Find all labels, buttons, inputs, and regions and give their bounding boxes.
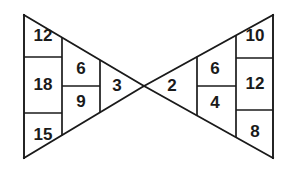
cell-left-outer-middle: 18 [34, 75, 53, 94]
cell-right-outer-middle: 12 [246, 74, 265, 93]
cell-right-middle-top: 6 [210, 59, 219, 78]
cell-right-outer-bottom: 8 [250, 122, 259, 141]
cell-left-outer-bottom: 15 [34, 125, 53, 144]
bowtie-figure: 12 18 15 6 9 3 2 6 4 1 [0, 0, 287, 172]
cell-right-outer-top: 10 [246, 26, 265, 45]
cell-right-middle-bottom: 4 [210, 93, 220, 112]
cell-left-middle-top: 6 [76, 59, 85, 78]
left-triangle-group: 12 18 15 6 9 3 [24, 15, 144, 158]
cell-left-middle-bottom: 9 [76, 92, 85, 111]
bowtie-diagram-canvas: 12 18 15 6 9 3 2 6 4 1 [0, 0, 287, 172]
cell-left-outer-top: 12 [34, 26, 53, 45]
right-triangle-group: 2 6 4 10 12 8 [144, 15, 273, 158]
cell-left-apex: 3 [112, 76, 121, 95]
cell-right-apex: 2 [167, 76, 176, 95]
